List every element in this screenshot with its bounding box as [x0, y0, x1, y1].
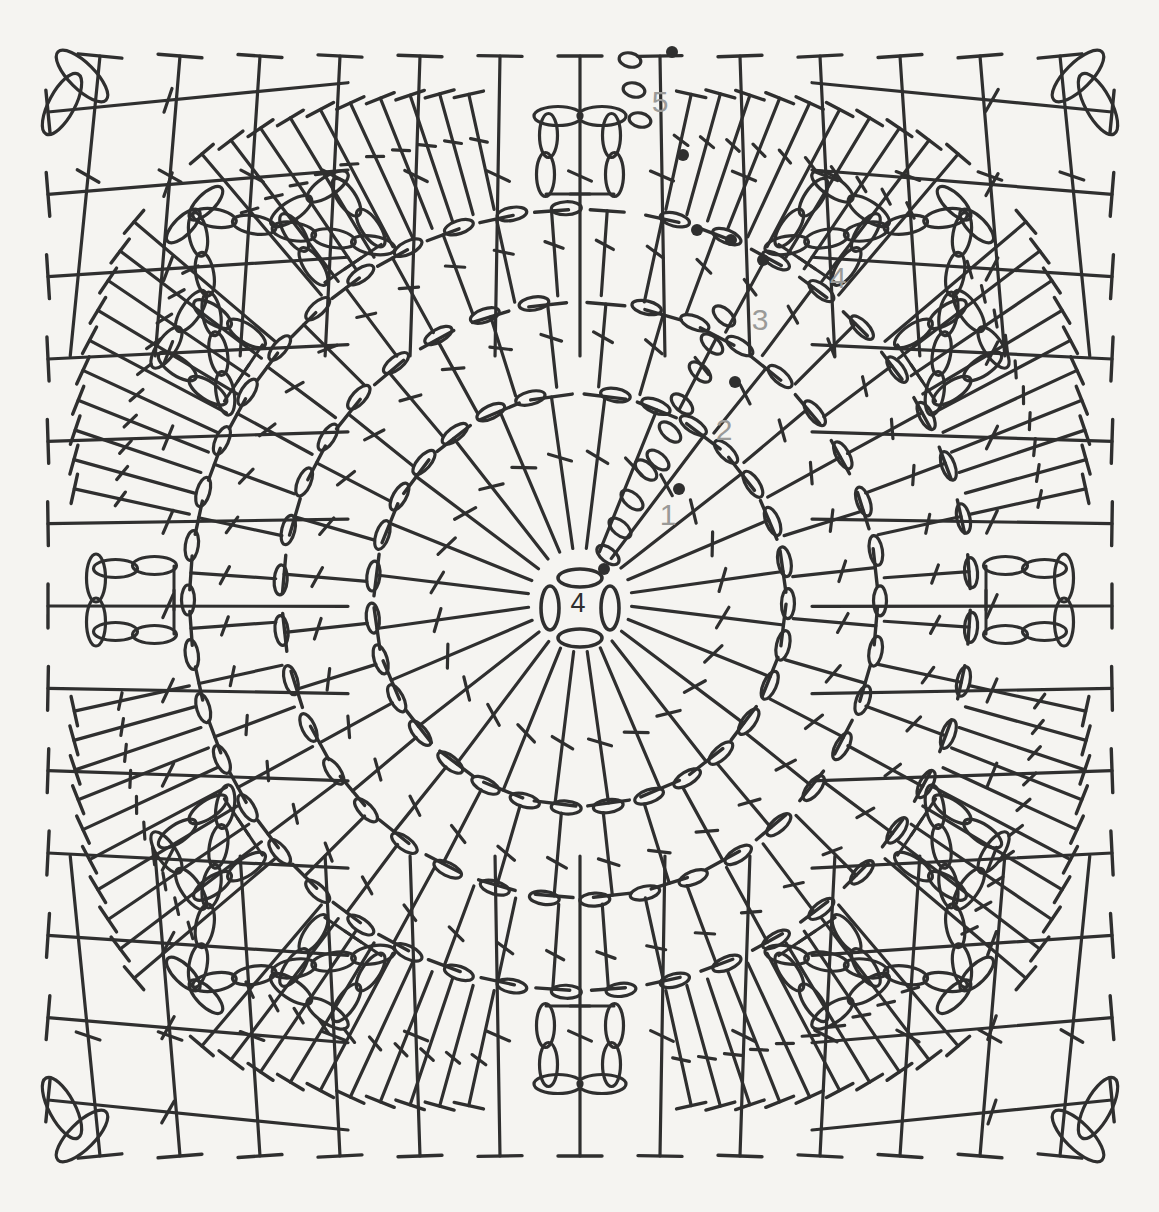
double-crochet-icon — [71, 474, 189, 514]
double-crochet-icon — [812, 749, 1113, 793]
chain-stitch-icon — [540, 114, 558, 158]
chain-stitch-icon — [314, 421, 341, 453]
chain-stitch-icon — [496, 977, 528, 995]
double-crochet-icon — [378, 250, 434, 333]
double-crochet-icon — [866, 447, 952, 493]
double-crochet-icon — [628, 501, 777, 580]
chain-stitch-icon — [628, 111, 652, 129]
chain-stitch-icon — [551, 800, 582, 815]
chain-stitch-icon — [35, 1072, 90, 1144]
double-crochet-icon — [427, 229, 473, 315]
chain-stitch-icon — [606, 1004, 624, 1048]
chain-stitch-icon — [193, 692, 214, 724]
double-crochet-icon — [763, 844, 828, 922]
double-crochet-icon — [558, 56, 602, 356]
chain-stitch-icon — [618, 51, 642, 69]
chain-stitch-icon — [296, 711, 321, 744]
double-crochet-icon — [884, 555, 970, 589]
chain-stitch-icon — [739, 468, 766, 500]
double-crochet-icon — [190, 144, 321, 295]
double-crochet-icon — [282, 555, 366, 593]
double-crochet-icon — [428, 886, 474, 972]
round-label-r3: 3 — [752, 303, 769, 336]
double-crochet-icon — [587, 302, 625, 386]
double-crochet-icon — [379, 767, 446, 844]
round-label-r2: 2 — [716, 413, 733, 446]
double-crochet-icon — [884, 610, 970, 644]
chain-stitch-icon — [677, 866, 710, 889]
slip-stitch-icon — [673, 483, 685, 495]
chain-stitch-icon — [799, 772, 828, 804]
double-crochet-icon — [454, 91, 494, 209]
double-crochet-icon — [383, 620, 532, 699]
chain-stitch-icon — [606, 514, 635, 541]
chain-stitch-icon — [537, 153, 555, 197]
chain-stitch-icon — [705, 738, 736, 768]
chain-stitch-icon — [434, 748, 466, 777]
chain-stitch-icon — [469, 773, 502, 798]
chain-stitch-icon — [558, 629, 602, 647]
double-crochet-icon — [420, 330, 477, 412]
double-crochet-icon — [628, 619, 778, 696]
double-crochet-icon — [124, 859, 275, 990]
double-crochet-icon — [747, 734, 824, 801]
chain-stitch-icon — [631, 298, 663, 317]
double-crochet-icon — [718, 764, 786, 840]
chain-stitch-icon — [182, 585, 195, 615]
chain-stitch-icon — [370, 643, 391, 675]
double-crochet-icon — [584, 394, 626, 548]
chain-stitch-icon — [622, 81, 646, 99]
double-crochet-icon — [812, 83, 1114, 134]
double-crochet-icon — [971, 474, 1089, 514]
double-crochet-icon — [257, 353, 335, 417]
chain-stitch-icon — [781, 589, 795, 619]
chain-stitch-icon — [184, 181, 228, 225]
chain-stitch-icon — [439, 420, 471, 448]
double-crochet-icon — [47, 419, 348, 463]
double-crochet-icon — [484, 648, 561, 798]
double-crochet-icon — [535, 210, 569, 296]
double-crochet-icon — [590, 210, 624, 296]
double-crochet-icon — [124, 210, 275, 341]
chain-stitch-icon — [644, 446, 673, 473]
round-label-r4: 4 — [830, 261, 847, 294]
chain-stitch-icon — [671, 765, 703, 792]
double-crochet-icon — [440, 642, 549, 777]
chain-stitch-icon — [640, 395, 673, 418]
double-crochet-icon — [293, 816, 365, 888]
slip-stitch-icon — [725, 234, 737, 246]
chain-stitch-icon — [603, 1043, 621, 1087]
chain-stitch-icon — [761, 505, 784, 538]
double-crochet-icon — [70, 445, 195, 493]
chain-stitch-icon — [133, 557, 177, 575]
double-crochet-icon — [374, 607, 528, 649]
slip-stitch-icon — [757, 254, 769, 266]
double-crochet-icon — [812, 419, 1113, 463]
double-crochet-icon — [793, 607, 877, 645]
double-crochet-icon — [587, 651, 629, 805]
double-crochet-icon — [454, 991, 494, 1109]
chain-stitch-icon — [351, 795, 381, 826]
double-crochet-icon — [770, 699, 852, 754]
double-crochet-icon — [666, 991, 706, 1109]
double-crochet-icon — [190, 556, 276, 590]
chain-stitch-icon — [558, 569, 602, 587]
double-crochet-icon — [687, 985, 735, 1110]
double-crochet-icon — [796, 815, 868, 887]
double-crochet-icon — [479, 805, 520, 890]
chain-stitch-icon — [386, 480, 412, 512]
chain-stitch-icon — [184, 975, 228, 1019]
chain-stitch-icon — [632, 456, 661, 484]
double-crochet-icon — [379, 868, 435, 951]
chain-stitch-icon — [431, 857, 464, 882]
chain-stitch-icon — [392, 235, 425, 260]
double-crochet-icon — [46, 83, 348, 134]
chain-stitch-icon — [551, 985, 581, 999]
double-crochet-icon — [195, 501, 282, 536]
double-crochet-icon — [767, 103, 853, 247]
crochet-chart-svg: 412345 — [0, 0, 1159, 1212]
chain-stitch-icon — [606, 153, 624, 197]
round-label-r1: 1 — [660, 498, 677, 531]
chain-stitch-icon — [618, 486, 647, 513]
double-crochet-icon — [824, 352, 902, 417]
